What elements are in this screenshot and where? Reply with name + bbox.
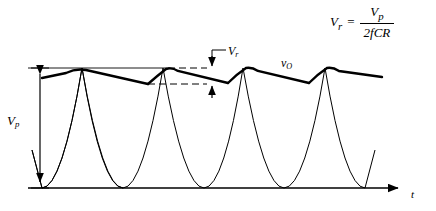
vr-leader-line bbox=[212, 50, 226, 58]
formula-lhs: Vr bbox=[330, 14, 342, 32]
filtered-output-envelope bbox=[42, 68, 382, 84]
ripple-formula: Vr = Vp 2fCR bbox=[330, 4, 394, 41]
formula-fraction: Vp 2fCR bbox=[360, 4, 395, 41]
formula-numerator-symbol: V bbox=[370, 4, 378, 19]
vo-label-subscript: O bbox=[286, 62, 292, 71]
vp-label-subscript: p bbox=[15, 119, 19, 129]
rectified-sine-arcs bbox=[32, 68, 375, 188]
vr-label-subscript: r bbox=[235, 50, 238, 59]
formula-numerator: Vp bbox=[366, 4, 387, 23]
ripple-voltage-diagram: Vp Vr vO t Vr = Vp 2fCR bbox=[0, 0, 436, 211]
formula-denominator: 2fCR bbox=[360, 24, 395, 41]
formula-lhs-symbol: V bbox=[330, 14, 338, 29]
vr-label: Vr bbox=[228, 45, 239, 59]
vp-label: Vp bbox=[7, 114, 19, 129]
formula-lhs-subscript: r bbox=[338, 19, 342, 31]
vp-label-symbol: V bbox=[7, 113, 15, 128]
formula-equals: = bbox=[347, 14, 354, 30]
formula-numerator-subscript: p bbox=[378, 10, 383, 22]
vo-label: vO bbox=[281, 57, 292, 71]
time-axis-label: t bbox=[411, 189, 414, 200]
